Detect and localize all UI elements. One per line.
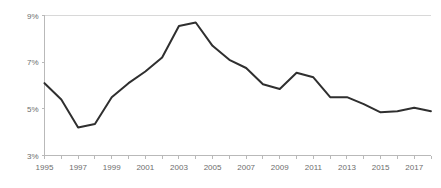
x-tick-label: 2009 [271,163,289,172]
x-tick-label: 2017 [405,163,423,172]
y-tick-label: 9% [27,12,39,21]
y-tick-label: 5% [27,105,39,114]
chart-plot-area: 3%5%7%9%19951997199920012003200520072009… [0,0,441,188]
x-tick-label: 1997 [69,163,87,172]
x-tick-label: 2011 [305,163,323,172]
x-tick-label: 2015 [372,163,390,172]
x-tick-label: 1995 [36,163,54,172]
y-tick-label: 3% [27,152,39,161]
line-chart: 3%5%7%9%19951997199920012003200520072009… [0,0,441,188]
series-line [45,23,432,128]
x-tick-label: 2003 [170,163,188,172]
y-tick-label: 7% [27,58,39,67]
x-tick-label: 2005 [204,163,222,172]
x-tick-label: 2007 [237,163,255,172]
x-tick-label: 2001 [136,163,154,172]
x-tick-label: 2013 [338,163,356,172]
x-tick-label: 1999 [103,163,121,172]
